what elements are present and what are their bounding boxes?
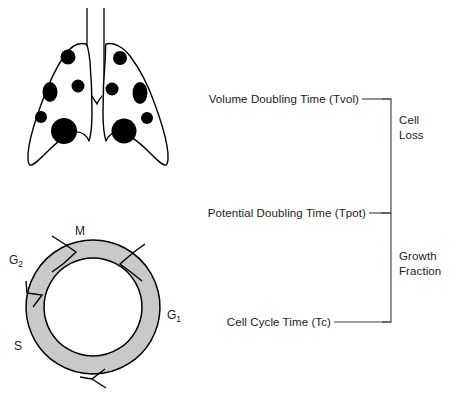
phase-label-s-text: S: [14, 339, 22, 353]
label-potential-doubling-time: Potential Doubling Time (Tpot): [160, 206, 366, 221]
nodule: [133, 82, 148, 104]
nodule: [61, 50, 76, 65]
phase-label-g1-subscript: 1: [176, 314, 181, 324]
annotation-cell-loss: Cell Loss: [399, 113, 424, 142]
right-lung-outline: [103, 44, 168, 166]
annotation-cell-loss-line2: Loss: [399, 128, 424, 143]
annotation-growth-fraction-line2: Fraction: [399, 264, 441, 279]
annotation-growth-fraction-line1: Growth: [399, 249, 441, 264]
divider-line-m-g1: [134, 244, 145, 252]
bracket-group: [381, 99, 391, 322]
figure-root: Volume Doubling Time (Tvol) Potential Do…: [0, 0, 456, 415]
phase-label-g2-subscript: 2: [18, 259, 23, 269]
phase-label-g1-text: G: [167, 308, 176, 322]
divider-line-g2-m: [52, 236, 63, 243]
label-volume-doubling-time: Volume Doubling Time (Tvol): [160, 92, 359, 107]
annotation-cell-loss-line1: Cell: [399, 113, 424, 128]
figure-caption: [2, 408, 192, 415]
divider-line-s-g2: [26, 281, 27, 293]
nodule: [106, 83, 119, 96]
carina-notch: [92, 96, 102, 104]
grouping-bracket: [382, 99, 391, 322]
phase-label-m-text: M: [75, 224, 85, 238]
phase-label-m: M: [75, 224, 85, 238]
nodule: [43, 82, 58, 102]
cell-cycle-group: [26, 236, 160, 388]
nodule: [51, 118, 77, 144]
nodule: [35, 111, 47, 123]
phase-label-g1: G1: [167, 308, 181, 322]
annotation-growth-fraction: Growth Fraction: [399, 249, 441, 278]
left-lung-outline: [28, 44, 92, 166]
nodule: [112, 119, 137, 144]
phase-label-s: S: [14, 339, 22, 353]
divider-line-g1-s: [80, 377, 92, 379]
label-cell-cycle-time: Cell Cycle Time (Tc): [160, 315, 331, 330]
phase-label-g2-text: G: [9, 253, 18, 267]
nodule: [141, 112, 153, 124]
phase-label-g2: G2: [9, 253, 23, 267]
lungs-group: [28, 8, 168, 165]
nodule: [113, 51, 127, 65]
cell-cycle-annulus: [26, 240, 160, 374]
nodule: [72, 80, 85, 93]
